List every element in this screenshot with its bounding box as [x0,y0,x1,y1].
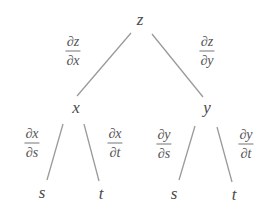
partial-dx-dt: ∂x ∂t [107,127,122,160]
numerator: ∂x [24,127,39,143]
denominator: ∂s [157,145,171,161]
edge-y-s [179,126,195,180]
edge-x-s [47,124,63,180]
partial-dz-dy: ∂z ∂y [199,35,214,68]
partial-dy-ds: ∂y ∂s [156,128,171,161]
node-y-s: s [171,185,178,202]
numerator: ∂z [66,35,80,51]
edge-z-x [77,33,131,96]
denominator: ∂s [25,144,39,160]
partial-dz-dx: ∂z ∂x [65,35,80,68]
partial-dx-ds: ∂x ∂s [24,127,39,160]
node-x-s: s [39,184,46,201]
edge-z-y [152,34,203,97]
numerator: ∂x [107,127,122,143]
node-y-t: t [232,186,237,203]
denominator: ∂t [240,145,253,161]
denominator: ∂t [109,144,122,160]
node-x-t: t [99,185,104,202]
numerator: ∂z [200,35,214,51]
denominator: ∂y [199,52,214,68]
chain-rule-tree-diagram: z x y s t s t ∂z ∂x ∂z ∂y ∂x ∂s ∂x ∂t ∂y… [0,0,266,211]
numerator: ∂y [156,128,171,144]
node-y: y [203,99,211,116]
partial-dy-dt: ∂y ∂t [238,128,253,161]
denominator: ∂x [65,52,80,68]
edge-x-t [84,124,99,181]
node-z: z [137,11,144,28]
node-x: x [72,99,80,116]
edge-y-t [217,127,232,182]
numerator: ∂y [238,128,253,144]
edge-lines [0,0,266,211]
